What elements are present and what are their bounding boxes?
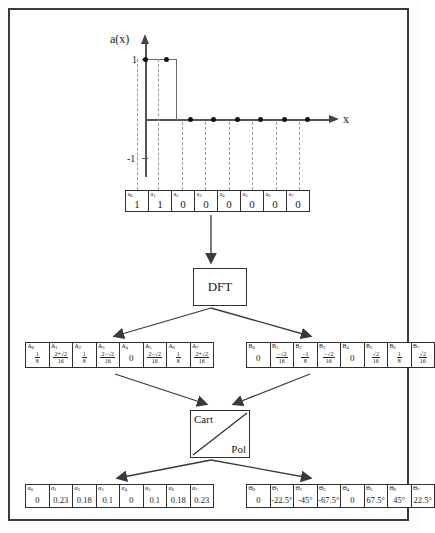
real-cell-7: A7 2+√2 16 (190, 342, 215, 368)
imag-cell-4-value: 0 (350, 353, 355, 363)
imag-cell-1: B1 −√2 16 (270, 342, 295, 368)
real-cell-0-label: A0 (28, 343, 35, 351)
imag-cell-3-value: −√2 16 (323, 351, 335, 365)
imag-cell-0: B0 0 (246, 342, 271, 368)
magnitude-cell-5-label: α5 (145, 485, 150, 493)
magnitude-cell-3: α3 0.1 (96, 484, 121, 508)
real-cell-1-label: A1 (51, 343, 58, 351)
phase-cell-2: Θ2 -45° (293, 484, 318, 508)
real-cell-0: A0 1 8 (25, 342, 50, 368)
real-cell-7-label: A7 (192, 343, 199, 351)
real-cell-4: A4 0 (119, 342, 144, 368)
real-cell-6-value: 1 8 (176, 351, 181, 365)
phase-cell-6: Θ6 45° (387, 484, 412, 508)
magnitude-cell-4: α4 0 (119, 484, 144, 508)
real-cell-3-value: 2−√2 16 (100, 351, 115, 365)
magnitude-cell-3-value: 0.1 (102, 495, 113, 507)
input-cell-3-label: a3 (197, 191, 202, 199)
arrow-cartpol-to-phase (211, 460, 310, 478)
y-axis (145, 42, 147, 177)
input-cell-0-value: 1 (134, 199, 140, 211)
phase-cell-0-label: Θ0 (249, 485, 256, 493)
real-cell-5-label: A5 (145, 343, 152, 351)
imag-cell-4: B4 0 (340, 342, 365, 368)
magnitude-array: α0 0 α1 0.23 α2 0.18 α3 0.1 α4 0 α5 0.1 (25, 484, 214, 508)
magnitude-cell-0-label: α0 (28, 485, 33, 493)
imag-cell-5-label: B5 (366, 343, 372, 351)
drop-line-4 (229, 122, 230, 190)
phase-cell-2-label: Θ2 (296, 485, 303, 493)
input-cell-4-label: a4 (220, 191, 225, 199)
real-cell-6-label: A6 (169, 343, 176, 351)
real-cell-3-label: A3 (98, 343, 105, 351)
x-axis-label: x (343, 112, 349, 127)
real-cell-1: A1 2+√2 16 (49, 342, 74, 368)
phase-cell-7-value: 22.5° (414, 495, 432, 507)
input-cell-4: a4 0 (217, 190, 241, 212)
sample-dot-5 (258, 117, 263, 122)
input-cell-6-value: 0 (272, 199, 278, 211)
real-cell-4-value: 0 (129, 353, 134, 363)
magnitude-cell-6-label: α6 (169, 485, 174, 493)
input-cell-2-label: a2 (174, 191, 179, 199)
magnitude-cell-7-value: 0.23 (194, 495, 209, 507)
magnitude-cell-2: α2 0.18 (72, 484, 97, 508)
arrow-imag-to-cartpol (234, 374, 310, 404)
imag-cell-2-value: −1 8 (301, 351, 309, 365)
input-cell-0-label: a0 (128, 191, 133, 199)
imag-cell-4-label: B4 (343, 343, 349, 351)
imag-cell-6: B6 1 8 (387, 342, 412, 368)
input-cell-1-value: 1 (157, 199, 163, 211)
input-cell-7-label: a7 (289, 191, 294, 199)
input-array: a0 1 a1 1 a2 0 a3 0 a4 0 a5 0 (125, 190, 310, 212)
phase-cell-5: Θ5 67.5° (364, 484, 389, 508)
imag-cell-2: B2 −1 8 (293, 342, 318, 368)
input-cell-0: a0 1 (125, 190, 149, 212)
imag-cell-3-label: B3 (319, 343, 325, 351)
drop-line-7 (299, 122, 300, 190)
input-cell-7: a7 0 (286, 190, 310, 212)
imag-cell-7-label: B7 (413, 343, 419, 351)
drop-line-1 (158, 59, 159, 190)
magnitude-cell-1-value: 0.23 (53, 495, 68, 507)
magnitude-cell-1-label: α1 (51, 485, 56, 493)
input-cell-3: a3 0 (194, 190, 218, 212)
magnitude-cell-1: α1 0.23 (49, 484, 74, 508)
phase-cell-3-value: -67.5° (318, 495, 339, 507)
real-part-array: A0 1 8 A1 2+√2 16 A2 1 8 (25, 342, 214, 368)
dft-box: DFT (193, 268, 247, 306)
magnitude-cell-4-label: α4 (122, 485, 127, 493)
sample-dot-7 (305, 117, 310, 122)
phase-cell-5-label: Θ5 (366, 485, 373, 493)
real-cell-0-value: 1 8 (35, 351, 40, 365)
phase-cell-6-value: 45° (393, 495, 405, 507)
real-cell-2-label: A2 (75, 343, 82, 351)
magnitude-cell-7: α7 0.23 (190, 484, 215, 508)
imag-cell-0-value: 0 (256, 353, 261, 363)
magnitude-cell-7-label: α7 (192, 485, 197, 493)
step-top-segment (145, 59, 177, 60)
phase-cell-2-value: -45° (298, 495, 313, 507)
real-cell-2-value: 1 8 (82, 351, 87, 365)
magnitude-cell-4-value: 0 (129, 495, 133, 507)
phase-array: Θ0 0 Θ1 -22.5° Θ2 -45° Θ3 -67.5° Θ4 0 Θ5… (246, 484, 435, 508)
input-cell-1-label: a1 (151, 191, 156, 199)
magnitude-cell-3-label: α3 (98, 485, 103, 493)
real-cell-4-label: A4 (122, 343, 129, 351)
magnitude-cell-0-value: 0 (35, 495, 39, 507)
cartesian-to-polar-box: Cart Pol (190, 410, 250, 458)
phase-cell-1-value: -22.5° (271, 495, 292, 507)
phase-cell-4: Θ4 0 (340, 484, 365, 508)
pol-label: Pol (231, 443, 246, 455)
cart-label: Cart (194, 413, 213, 425)
input-cell-7-value: 0 (295, 199, 301, 211)
arrow-dft-to-real (115, 308, 211, 336)
y-axis-arrow-icon (141, 34, 149, 44)
input-cell-1: a1 1 (148, 190, 172, 212)
real-cell-7-value: 2+√2 16 (194, 351, 209, 365)
arrow-cartpol-to-magnitude (118, 460, 211, 478)
phase-cell-0-value: 0 (256, 495, 260, 507)
phase-cell-5-value: 67.5° (367, 495, 385, 507)
magnitude-cell-0: α0 0 (25, 484, 50, 508)
x-axis-arrow-icon (329, 115, 339, 123)
